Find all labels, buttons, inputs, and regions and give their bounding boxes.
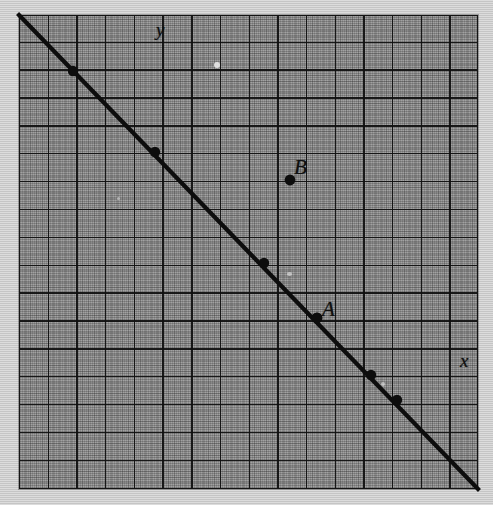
- x-axis-label: x: [460, 351, 468, 370]
- figure-canvas: y x A B: [0, 0, 493, 505]
- graph-line: [19, 15, 478, 489]
- point-b-label: B: [294, 157, 307, 178]
- point-a-label: A: [322, 299, 335, 320]
- line-marker-point: [150, 147, 160, 157]
- graph-overlay: [0, 0, 493, 505]
- line-marker-point: [68, 66, 78, 76]
- y-axis-label: y: [156, 20, 164, 39]
- line-marker-point: [259, 258, 269, 268]
- line-marker-point: [392, 395, 402, 405]
- line-segment: [19, 15, 478, 489]
- labeled-point-a: [312, 313, 323, 324]
- line-marker-point: [366, 370, 376, 380]
